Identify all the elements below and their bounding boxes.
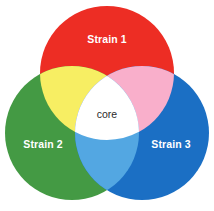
label-strain-2: Strain 2	[23, 138, 62, 150]
label-strain-3: Strain 3	[151, 138, 190, 150]
label-strain-1: Strain 1	[87, 33, 126, 45]
label-core: core	[97, 108, 118, 120]
venn-diagram: Strain 1 Strain 2 Strain 3 core	[0, 0, 214, 211]
venn-diagram-canvas: Strain 1 Strain 2 Strain 3 core	[0, 0, 214, 211]
